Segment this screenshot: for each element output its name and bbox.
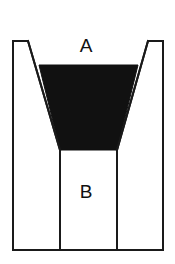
diagram-canvas: A B bbox=[0, 0, 175, 264]
container-funnel-diagram: A B bbox=[0, 0, 175, 264]
region-a-label: A bbox=[80, 35, 93, 56]
region-b-label: B bbox=[80, 181, 93, 202]
